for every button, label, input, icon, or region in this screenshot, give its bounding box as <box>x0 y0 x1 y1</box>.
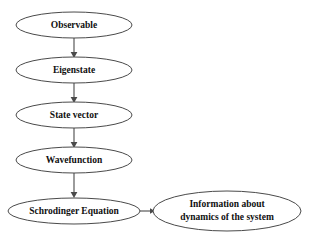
node-label-information-line-2: dynamics of the system <box>180 212 274 222</box>
node-label-eigenstate: Eigenstate <box>53 65 95 75</box>
node-observable[interactable]: Observable <box>16 12 132 38</box>
edge-eigenstate-to-state-vector <box>71 83 78 103</box>
flowchart-diagram: Observable Eigenstate State vector Wavef… <box>0 0 311 240</box>
node-state-vector[interactable]: State vector <box>16 102 132 128</box>
node-group: Observable Eigenstate State vector Wavef… <box>8 12 301 231</box>
arrowhead-down-icon <box>71 192 78 198</box>
edge-observable-to-eigenstate <box>71 38 78 58</box>
flowchart-canvas: Observable Eigenstate State vector Wavef… <box>0 0 311 240</box>
node-label-state-vector: State vector <box>50 110 99 120</box>
node-label-wavefunction: Wavefunction <box>46 155 103 165</box>
node-label-observable: Observable <box>51 20 97 30</box>
node-information-about-dynamics[interactable]: Information about dynamics of the system <box>153 191 301 231</box>
node-label-information-line-1: Information about <box>189 199 265 209</box>
edge-state-vector-to-wavefunction <box>71 128 78 148</box>
node-schrodinger-equation[interactable]: Schrodinger Equation <box>8 198 140 224</box>
node-eigenstate[interactable]: Eigenstate <box>16 57 132 83</box>
node-label-schrodinger-equation: Schrodinger Equation <box>29 206 119 216</box>
node-wavefunction[interactable]: Wavefunction <box>16 147 132 173</box>
edge-wavefunction-to-schrodinger-equation <box>71 173 78 198</box>
